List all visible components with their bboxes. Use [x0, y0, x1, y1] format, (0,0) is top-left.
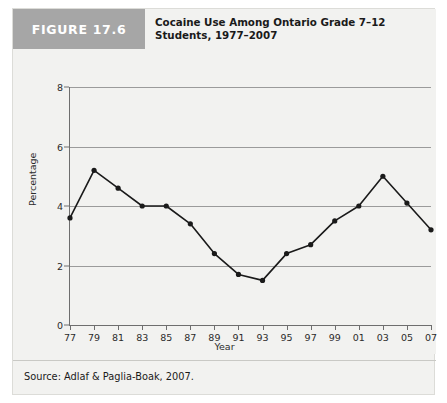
data-point-marker — [67, 215, 72, 220]
data-series-line — [70, 87, 431, 325]
x-tick-mark — [70, 325, 71, 330]
y-tick-mark — [64, 146, 69, 147]
data-point-marker — [380, 174, 385, 179]
y-tick-mark — [64, 206, 69, 207]
figure-title: Cocaine Use Among Ontario Grade 7–12 Stu… — [155, 16, 430, 42]
figure-title-container: Cocaine Use Among Ontario Grade 7–12 Stu… — [145, 9, 436, 49]
data-point-marker — [428, 227, 433, 232]
y-tick-label: 0 — [57, 320, 63, 331]
figure-number-label: FIGURE 17.6 — [32, 22, 127, 37]
y-tick-label: 6 — [57, 141, 63, 152]
x-tick-mark — [94, 325, 95, 330]
x-tick-mark — [214, 325, 215, 330]
x-tick-mark — [142, 325, 143, 330]
y-tick-label: 4 — [57, 201, 63, 212]
plot-area: 02468 77798183858789919395979901030507 — [70, 87, 431, 325]
figure-source: Source: Adlaf & Paglia-Boak, 2007. — [24, 371, 194, 382]
data-point-marker — [356, 203, 361, 208]
data-point-marker — [212, 251, 217, 256]
data-point-marker — [332, 218, 337, 223]
y-tick-label: 8 — [57, 82, 63, 93]
data-point-marker — [284, 251, 289, 256]
x-tick-mark — [166, 325, 167, 330]
x-tick-mark — [311, 325, 312, 330]
x-tick-mark — [383, 325, 384, 330]
x-tick-mark — [263, 325, 264, 330]
y-tick-label: 2 — [57, 260, 63, 271]
chart-container: Percentage 02468 77798183858789919395979… — [13, 49, 436, 354]
x-axis-line — [69, 325, 431, 326]
figure-header: FIGURE 17.6 Cocaine Use Among Ontario Gr… — [13, 9, 436, 49]
data-point-marker — [404, 200, 409, 205]
x-tick-mark — [359, 325, 360, 330]
data-point-marker — [236, 272, 241, 277]
data-point-marker — [116, 186, 121, 191]
x-tick-mark — [407, 325, 408, 330]
data-point-marker — [164, 203, 169, 208]
data-point-marker — [308, 242, 313, 247]
x-tick-mark — [287, 325, 288, 330]
x-tick-mark — [190, 325, 191, 330]
footer-divider — [13, 360, 436, 361]
x-tick-mark — [118, 325, 119, 330]
data-point-marker — [140, 203, 145, 208]
x-tick-mark — [431, 325, 432, 330]
data-point-marker — [260, 278, 265, 283]
figure-number-badge: FIGURE 17.6 — [13, 9, 145, 49]
y-tick-mark — [64, 265, 69, 266]
y-tick-mark — [64, 325, 69, 326]
y-axis-title: Percentage — [27, 153, 38, 206]
data-point-marker — [188, 221, 193, 226]
data-point-marker — [91, 168, 96, 173]
x-tick-mark — [238, 325, 239, 330]
y-tick-mark — [64, 87, 69, 88]
x-axis-title: Year — [13, 341, 436, 352]
x-tick-mark — [335, 325, 336, 330]
series-polyline — [70, 170, 431, 280]
figure-card: FIGURE 17.6 Cocaine Use Among Ontario Gr… — [12, 8, 435, 395]
